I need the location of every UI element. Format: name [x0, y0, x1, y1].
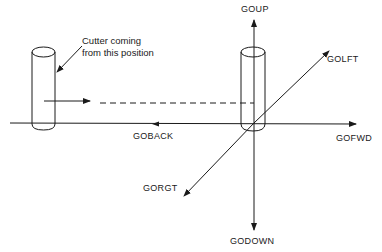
cutter-end-cylinder [241, 47, 265, 131]
label-goback: GOBACK [133, 131, 173, 141]
callout-line-1: Cutter coming [82, 35, 154, 47]
label-gofwd: GOFWD [336, 133, 372, 143]
cutter-motion-diagram [0, 0, 382, 252]
gorgt-axis [184, 123, 254, 196]
callout-text: Cutter coming from this position [82, 35, 154, 59]
horizontal-axis [10, 123, 356, 124]
goback-arrowhead [152, 122, 159, 127]
callout-leader-arrow [57, 46, 82, 72]
label-goup: GOUP [241, 4, 269, 14]
label-golft: GOLFT [327, 54, 359, 64]
cutter-start-cylinder [32, 47, 55, 130]
label-godown: GODOWN [230, 236, 274, 246]
label-gorgt: GORGT [143, 183, 178, 193]
callout-line-2: from this position [82, 47, 154, 59]
